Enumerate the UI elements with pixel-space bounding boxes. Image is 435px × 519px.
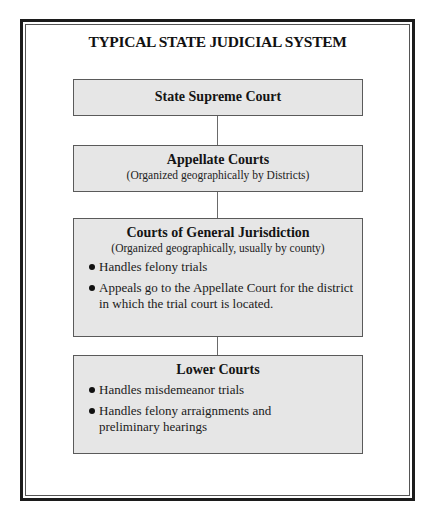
connector-general-lower: [217, 337, 218, 355]
general-jurisdiction-box: Courts of General Jurisdiction (Organize…: [73, 218, 363, 337]
bullet-item: Handles felony trials: [89, 259, 362, 275]
connector-appellate-general: [217, 192, 218, 218]
lower-courts-heading: Lower Courts: [74, 362, 362, 378]
bullet-icon: [89, 285, 95, 291]
general-jurisdiction-subtitle: (Organized geographically, usually by co…: [74, 242, 362, 254]
bullet-icon: [89, 408, 95, 414]
supreme-court-box: State Supreme Court: [73, 79, 363, 116]
bullet-item: Handles felony arraignments and prelimin…: [89, 403, 362, 435]
appellate-courts-box: Appellate Courts (Organized geographical…: [73, 145, 363, 192]
lower-courts-bullets: Handles misdemeanor trials Handles felon…: [74, 382, 362, 435]
bullet-icon: [89, 387, 95, 393]
general-jurisdiction-heading: Courts of General Jurisdiction: [74, 225, 362, 241]
general-jurisdiction-bullets: Handles felony trials Appeals go to the …: [74, 259, 362, 312]
connector-supreme-appellate: [217, 116, 218, 145]
bullet-item: Handles misdemeanor trials: [89, 382, 362, 398]
appellate-courts-subtitle: (Organized geographically by Districts): [74, 169, 362, 181]
appellate-courts-heading: Appellate Courts: [74, 152, 362, 168]
supreme-court-heading: State Supreme Court: [74, 89, 362, 105]
lower-courts-box: Lower Courts Handles misdemeanor trials …: [73, 355, 363, 454]
diagram-title: TYPICAL STATE JUDICIAL SYSTEM: [25, 33, 410, 51]
bullet-icon: [89, 264, 95, 270]
bullet-item: Appeals go to the Appellate Court for th…: [89, 280, 362, 312]
